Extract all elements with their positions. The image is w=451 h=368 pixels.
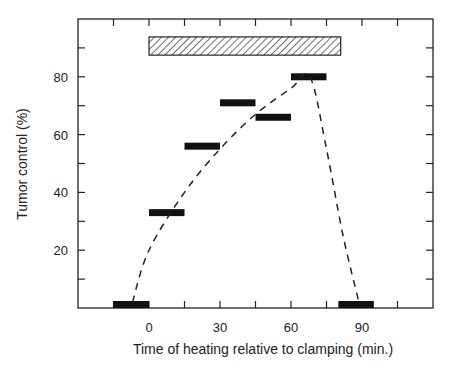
data-bar — [256, 114, 292, 121]
y-axis-label: Tumor control (%) — [14, 108, 30, 220]
y-tick-label: 20 — [54, 243, 68, 258]
y-tick-labels: 20406080 — [54, 70, 68, 258]
x-axis-label: Time of heating relative to clamping (mi… — [133, 341, 393, 357]
x-tick-label: 60 — [284, 320, 298, 335]
x-tick-labels: 0306090 — [145, 320, 369, 335]
x-tick-label: 0 — [145, 320, 152, 335]
plot-frame — [78, 19, 433, 308]
chart: 0306090 20406080 Time of heating relativ… — [0, 0, 451, 368]
clamping-hatched-bar — [149, 37, 341, 55]
x-tick-label: 90 — [355, 320, 369, 335]
data-bar — [185, 143, 221, 150]
x-tick-label: 30 — [213, 320, 227, 335]
data-bar — [338, 301, 374, 308]
hatched-bar — [149, 37, 341, 55]
y-tick-label: 60 — [54, 128, 68, 143]
data-bar — [114, 301, 150, 308]
y-tick-label: 40 — [54, 185, 68, 200]
axis-ticks — [78, 19, 433, 308]
data-bar — [220, 99, 256, 106]
dashed-trend-curve — [132, 73, 359, 305]
y-tick-label: 80 — [54, 70, 68, 85]
data-bars — [114, 73, 374, 308]
data-bar — [149, 209, 185, 216]
data-bar — [291, 73, 327, 80]
